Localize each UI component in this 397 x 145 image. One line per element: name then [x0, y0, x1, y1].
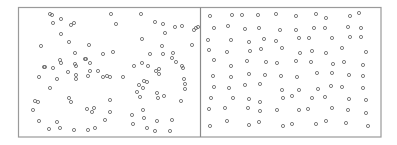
point-pattern-figure: [0, 0, 397, 145]
